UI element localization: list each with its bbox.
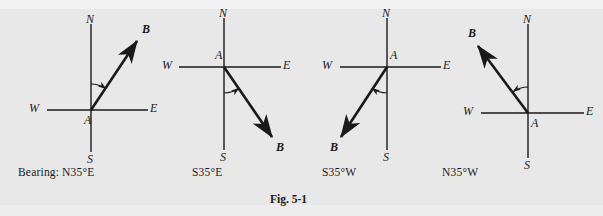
- compass-east-s35e: E: [283, 58, 290, 73]
- bearing-diagrams-svg: [0, 0, 603, 216]
- compass-north-n35w: N: [523, 12, 531, 27]
- compass-south-n35e: S: [87, 152, 93, 167]
- compass-north-s35w: N: [382, 6, 390, 21]
- angle-arc-n35e: [91, 84, 106, 89]
- compass-west-n35e: W: [29, 101, 39, 116]
- compass-south-s35e: S: [220, 150, 226, 165]
- angle-arc-s35w: [372, 88, 387, 93]
- bearing-ray-n35w: [478, 46, 528, 113]
- compass-east-n35w: E: [586, 104, 593, 119]
- point-label-b-n35e: B: [142, 22, 150, 37]
- point-label-b-s35w: B: [330, 140, 338, 155]
- point-label-a-s35e: A: [215, 48, 222, 63]
- bearing-value-s35e: S35°E: [192, 166, 223, 178]
- compass-south-s35w: S: [383, 150, 389, 165]
- compass-north-n35e: N: [86, 12, 94, 27]
- compass-west-s35e: W: [162, 58, 172, 73]
- figure-caption: Fig. 5-1: [270, 193, 307, 205]
- bearing-value-n35w: N35°W: [442, 166, 478, 178]
- point-label-b-n35w: B: [468, 26, 476, 41]
- angle-arc-n35w: [513, 87, 528, 92]
- bearing-ray-s35e: [224, 67, 272, 137]
- point-label-a-s35w: A: [390, 48, 397, 63]
- bearing-ray-s35w: [341, 67, 387, 137]
- compass-east-s35w: E: [443, 58, 450, 73]
- bearing-row-label: Bearing:: [18, 166, 59, 178]
- point-label-a-n35w: A: [531, 116, 538, 131]
- compass-north-s35e: N: [219, 6, 227, 21]
- point-label-b-s35e: B: [276, 140, 284, 155]
- compass-east-n35e: E: [150, 101, 157, 116]
- compass-west-s35w: W: [322, 58, 332, 73]
- angle-arc-s35e: [224, 88, 239, 93]
- bearing-value-n35e: N35°E: [62, 166, 94, 178]
- compass-south-n35w: S: [524, 158, 530, 173]
- figure-page: NSEWABNSEWABNSEWABNSEWABN35°ES35°ES35°WN…: [0, 0, 603, 216]
- point-label-a-n35e: A: [84, 113, 91, 128]
- bearing-value-s35w: S35°W: [322, 166, 356, 178]
- compass-west-n35w: W: [463, 104, 473, 119]
- bearing-ray-n35e: [91, 41, 137, 110]
